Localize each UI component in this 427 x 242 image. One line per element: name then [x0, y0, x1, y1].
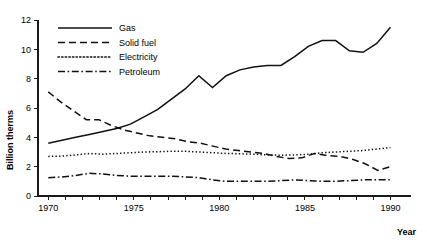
series-group: [48, 27, 390, 181]
legend-label-solid-fuel: Solid fuel: [119, 38, 156, 48]
y-tick-label: 10: [21, 45, 31, 55]
legend-label-gas: Gas: [119, 23, 136, 33]
y-tick-label: 2: [26, 162, 31, 172]
chart-legend: GasSolid fuelElectricityPetroleum: [58, 23, 160, 77]
x-tick-label: 1980: [209, 203, 229, 213]
series-line-electricity: [48, 148, 390, 157]
y-tick-label: 6: [26, 103, 31, 113]
x-tick-label: 1970: [38, 203, 58, 213]
y-tick-label: 0: [26, 191, 31, 201]
y-tick-label: 4: [26, 133, 31, 143]
series-line-gas: [48, 27, 390, 143]
y-tick-label: 12: [21, 15, 31, 25]
series-line-petroleum: [48, 173, 390, 181]
y-axis-title: Billion therms: [5, 110, 15, 170]
legend-label-electricity: Electricity: [119, 52, 158, 62]
y-tick-label: 8: [26, 74, 31, 84]
x-axis-title: Year: [397, 227, 417, 237]
chart-canvas: 02468101219701975198019851990 GasSolid f…: [0, 0, 427, 242]
x-tick-label: 1975: [124, 203, 144, 213]
legend-label-petroleum: Petroleum: [119, 67, 160, 77]
x-tick-label: 1985: [295, 203, 315, 213]
series-line-solid-fuel: [48, 92, 390, 170]
line-chart: 02468101219701975198019851990 GasSolid f…: [0, 0, 427, 242]
x-tick-label: 1990: [380, 203, 400, 213]
